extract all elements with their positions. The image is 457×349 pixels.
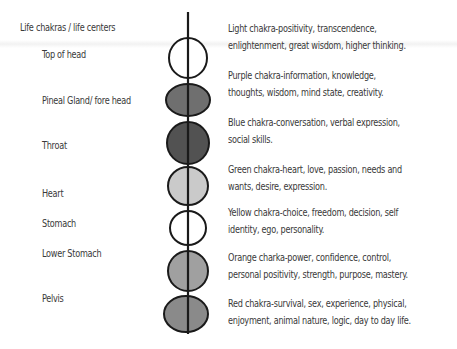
location-label: Lower Stomach: [42, 247, 101, 259]
description-line: Blue chakra-conversation, verbal express…: [228, 114, 400, 131]
diagram-title: Life chakras / life centers: [20, 21, 115, 33]
description-line: Light chakra-positivity, transcendence,: [228, 20, 406, 37]
location-label: Top of head: [42, 48, 86, 60]
chakra-description: Blue chakra-conversation, verbal express…: [228, 114, 400, 148]
chakra-description: Green chakra-heart, love, passion, needs…: [228, 161, 402, 195]
chakra-description: Orange charka-power, confidence, control…: [228, 249, 408, 283]
location-label: Throat: [42, 139, 67, 151]
chakra-description: Light chakra-positivity, transcendence, …: [228, 20, 406, 54]
chakra-description: Purple chakra-information, knowledge, th…: [228, 67, 383, 101]
location-label: Heart: [42, 187, 63, 199]
location-label: Pelvis: [42, 292, 64, 304]
description-line: personal positivity, strength, purpose, …: [228, 266, 408, 283]
chakra-description: Yellow chakra-choice, freedom, decision,…: [228, 204, 398, 238]
location-label: Stomach: [42, 217, 76, 229]
description-line: Orange charka-power, confidence, control…: [228, 249, 408, 266]
chakra-circle: [164, 296, 208, 332]
location-label: Pineal Gland/ fore head: [42, 94, 131, 106]
description-line: enlightenment, great wisdom, higher thin…: [228, 37, 406, 54]
description-line: Purple chakra-information, knowledge,: [228, 67, 383, 84]
description-line: social skills.: [228, 131, 400, 148]
description-line: wants, desire, expression.: [228, 178, 402, 195]
description-line: enjoyment, animal nature, logic, day to …: [228, 312, 411, 329]
description-line: Green chakra-heart, love, passion, needs…: [228, 161, 402, 178]
chakra-description: Red chakra-survival, sex, experience, ph…: [228, 295, 411, 329]
description-line: thoughts, wisdom, mind state, creativity…: [228, 84, 383, 101]
description-line: Red chakra-survival, sex, experience, ph…: [228, 295, 411, 312]
description-line: Yellow chakra-choice, freedom, decision,…: [228, 204, 398, 221]
description-line: identity, ego, personality.: [228, 221, 398, 238]
